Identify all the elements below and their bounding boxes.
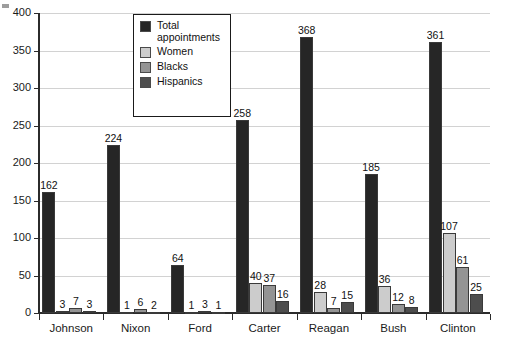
bar [429,42,442,313]
legend-item-women: Women [140,46,226,58]
bar-value-label: 25 [462,282,490,293]
bar [276,301,289,313]
bar [83,311,96,313]
legend-label-total-appointments: Total appointments [157,20,226,43]
bar [405,307,418,313]
y-tick-label: 50 [0,270,31,281]
bar [341,302,354,313]
y-tick-label: 300 [0,82,31,93]
gridline [39,51,490,52]
bar [120,312,133,314]
bar-value-label: 2 [140,300,168,311]
bar-value-label: 1 [204,300,232,311]
y-tick-label: 0 [0,307,31,318]
x-category-label-clinton: Clinton [418,322,498,335]
bar [236,120,249,314]
y-tick-mark [34,51,39,52]
bar-value-label: 107 [435,221,463,232]
legend-swatch-women [140,47,151,58]
gridline [39,88,490,89]
bar-value-label: 368 [293,25,321,36]
x-tick-mark [168,314,169,320]
bar [147,312,160,314]
y-tick-mark [34,276,39,277]
x-tick-mark [490,314,491,320]
bar-value-label: 28 [306,280,334,291]
gridline [39,13,490,14]
y-tick-mark [34,126,39,127]
bar-value-label: 37 [255,273,283,284]
bar-value-label: 16 [269,289,297,300]
y-tick-label: 350 [0,45,31,56]
legend-swatch-hispanics [140,77,151,88]
legend-label-hispanics: Hispanics [157,76,203,88]
bar [107,145,120,313]
bar [327,308,340,313]
legend-swatch-total-appointments [140,21,151,32]
y-tick-mark [34,238,39,239]
bar [300,37,313,313]
bar-value-label: 64 [164,253,192,264]
y-tick-label: 250 [0,120,31,131]
y-tick-mark [34,163,39,164]
bar-value-label: 15 [333,290,361,301]
y-tick-label: 100 [0,232,31,243]
bar-value-label: 258 [228,108,256,119]
y-tick-mark [34,88,39,89]
x-tick-mark [297,314,298,320]
x-tick-mark [39,314,40,320]
bar [365,174,378,313]
legend-item-blacks: Blacks [140,61,226,73]
y-tick-label: 400 [0,7,31,18]
y-tick-mark [34,13,39,14]
x-tick-mark [103,314,104,320]
bar-value-label: 361 [422,30,450,41]
bar [470,294,483,313]
bar [443,233,456,313]
legend-item-total-appointments: Total appointments [140,20,226,43]
legend-item-hispanics: Hispanics [140,76,226,88]
legend-label-women: Women [157,46,193,58]
bar-chart: 050100150200250300350400 162373224162641… [0,0,507,356]
x-tick-mark [232,314,233,320]
bar [212,312,225,314]
y-tick-label: 150 [0,195,31,206]
bar [56,311,69,313]
legend-label-blacks: Blacks [157,61,188,73]
y-tick-mark [34,201,39,202]
x-tick-mark [361,314,362,320]
bar [185,312,198,314]
bar-value-label: 3 [75,299,103,310]
bar-value-label: 185 [357,162,385,173]
bar-value-label: 224 [99,133,127,144]
bar [42,192,55,314]
y-tick-label: 200 [0,157,31,168]
chart-legend: Total appointments Women Blacks Hispanic… [133,14,231,117]
gridline [39,126,490,127]
bar-value-label: 8 [398,295,426,306]
bar-value-label: 61 [449,255,477,266]
bar-value-label: 162 [35,180,63,191]
bar-value-label: 36 [371,274,399,285]
bar [249,283,262,313]
x-tick-mark [426,314,427,320]
legend-swatch-blacks [140,62,151,73]
bar [198,311,211,313]
